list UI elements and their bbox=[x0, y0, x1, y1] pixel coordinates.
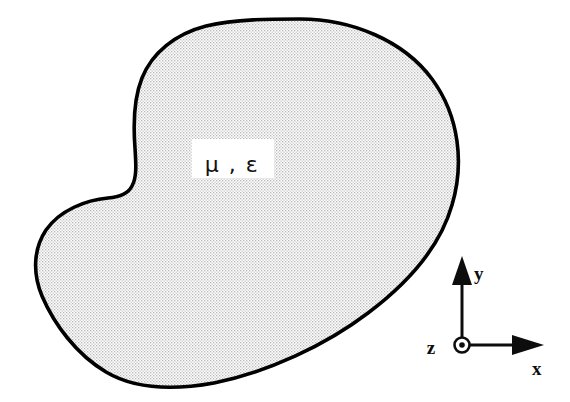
y-axis-label: y bbox=[474, 263, 484, 284]
x-axis-arrowhead-icon bbox=[512, 335, 544, 355]
material-region-shape bbox=[36, 19, 459, 387]
figure-svg: μ , ε y x z bbox=[0, 0, 570, 402]
z-axis-dot-icon bbox=[459, 342, 465, 348]
z-axis-label: z bbox=[427, 337, 436, 358]
figure-canvas: μ , ε y x z bbox=[0, 0, 570, 402]
y-axis-arrowhead-icon bbox=[452, 256, 472, 285]
x-axis-label: x bbox=[532, 358, 542, 379]
material-parameters-text: μ , ε bbox=[205, 152, 259, 177]
